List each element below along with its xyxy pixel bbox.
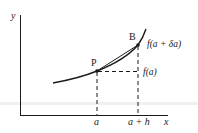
chord-pb — [97, 45, 138, 71]
f-a-label: f(a) — [143, 67, 157, 78]
point-p-marker — [95, 69, 99, 73]
x-axis-label: x — [163, 116, 169, 127]
point-b-marker — [136, 43, 140, 47]
tick-label-a: a — [94, 116, 99, 127]
scan-band — [0, 102, 198, 105]
tick-label-a-plus-h: a + h — [128, 116, 150, 127]
point-b-label: B — [129, 31, 136, 42]
derivative-chord-diagram: y x P B f(a + δa) f(a) a a + h — [0, 0, 198, 133]
f-a-plus-delta-a-label: f(a + δa) — [147, 39, 181, 50]
point-p-label: P — [91, 57, 97, 68]
y-axis-label: y — [10, 10, 16, 21]
